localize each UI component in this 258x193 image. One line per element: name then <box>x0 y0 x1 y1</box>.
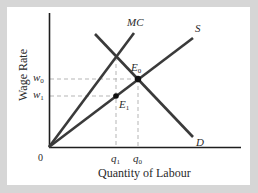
q0-sub: 0 <box>139 158 143 166</box>
supply-curve <box>49 38 193 147</box>
w1-sub: 1 <box>40 94 44 102</box>
mc-curve <box>49 33 134 147</box>
w0-tick-label: w0 <box>33 72 44 85</box>
e0-label-sub: 0 <box>138 67 142 75</box>
e0-label: E0 <box>131 62 141 75</box>
y-axis-title: Wage Rate <box>17 31 29 101</box>
q1-sub: 1 <box>117 158 121 166</box>
e1-label-sub: 1 <box>126 104 130 112</box>
origin-label: 0 <box>38 153 43 163</box>
q0-tick-label: q0 <box>133 153 142 166</box>
x-axis-title: Quantity of Labour <box>98 167 191 179</box>
e0-point <box>135 76 141 82</box>
w1-tick-label: w1 <box>33 89 44 102</box>
q1-tick-label: q1 <box>111 153 120 166</box>
supply-label: S <box>195 23 201 34</box>
e1-label: E1 <box>119 99 129 112</box>
e1-label-main: E <box>119 98 126 110</box>
demand-label: D <box>196 137 204 148</box>
w0-sub: 0 <box>40 77 44 85</box>
mc-label: MC <box>127 17 144 28</box>
e0-label-main: E <box>131 61 138 73</box>
e1-point <box>113 93 119 99</box>
